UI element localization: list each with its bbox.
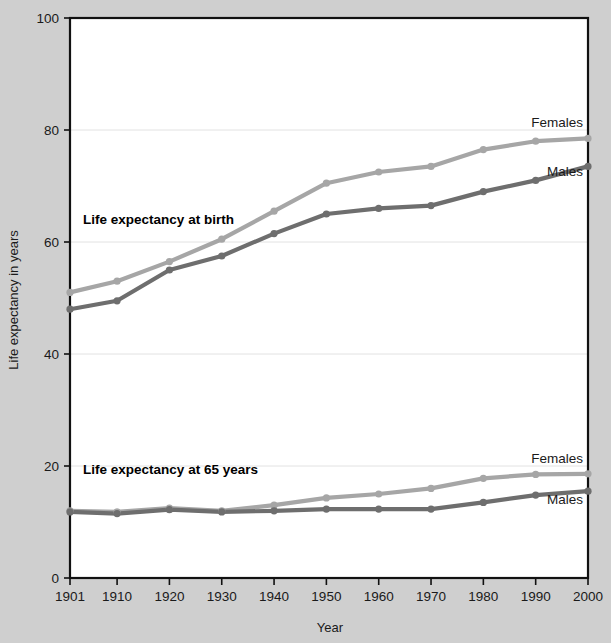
data-point-marker [113, 278, 120, 285]
data-point-marker [218, 252, 225, 259]
data-point-marker [375, 205, 382, 212]
y-tick-label: 100 [36, 11, 59, 26]
data-point-marker [323, 210, 330, 217]
data-point-marker [66, 508, 73, 515]
data-point-marker [584, 135, 591, 142]
y-tick-label: 40 [44, 347, 59, 362]
x-tick-label: 1920 [154, 589, 184, 604]
x-tick-label: 2000 [573, 589, 603, 604]
data-point-marker [270, 208, 277, 215]
data-point-marker [375, 506, 382, 513]
data-point-marker [584, 470, 591, 477]
data-point-marker [532, 471, 539, 478]
data-point-marker [480, 475, 487, 482]
y-tick-label: 20 [44, 459, 59, 474]
data-point-marker [270, 507, 277, 514]
series-end-label: Females [531, 451, 583, 466]
series-end-label: Females [531, 115, 583, 130]
data-point-marker [66, 306, 73, 313]
y-tick-label: 60 [44, 235, 59, 250]
x-tick-label: 1960 [364, 589, 394, 604]
data-point-marker [375, 168, 382, 175]
group-annotation-label: Life expectancy at birth [83, 212, 234, 227]
data-point-marker [166, 258, 173, 265]
data-point-marker [66, 289, 73, 296]
data-point-marker [480, 499, 487, 506]
data-point-marker [584, 488, 591, 495]
x-axis-title: Year [317, 620, 344, 635]
chart-canvas: 020406080100 190119101920193019401950196… [0, 0, 611, 643]
data-point-marker [323, 180, 330, 187]
data-point-marker [427, 202, 434, 209]
data-point-marker [532, 492, 539, 499]
data-point-marker [323, 494, 330, 501]
data-point-marker [218, 236, 225, 243]
x-tick-label: 1970 [416, 589, 446, 604]
y-axis-title: Life expectancy in years [6, 230, 21, 370]
x-tick-label: 1930 [207, 589, 237, 604]
data-point-marker [166, 506, 173, 513]
group-annotation-label: Life expectancy at 65 years [83, 462, 258, 477]
y-tick-label: 80 [44, 123, 59, 138]
data-point-marker [532, 177, 539, 184]
x-tick-label: 1980 [468, 589, 498, 604]
data-point-marker [113, 297, 120, 304]
x-tick-label: 1901 [55, 589, 85, 604]
life-expectancy-chart: 020406080100 190119101920193019401950196… [0, 0, 611, 643]
data-point-marker [532, 138, 539, 145]
x-tick-label: 1950 [311, 589, 341, 604]
data-point-marker [323, 506, 330, 513]
data-point-marker [113, 510, 120, 517]
data-point-marker [218, 508, 225, 515]
data-point-marker [375, 490, 382, 497]
series-end-label: Males [547, 492, 583, 507]
x-tick-label: 1940 [259, 589, 289, 604]
data-point-marker [427, 506, 434, 513]
data-point-marker [584, 163, 591, 170]
data-point-marker [480, 188, 487, 195]
data-point-marker [166, 266, 173, 273]
x-tick-label: 1910 [102, 589, 132, 604]
x-tick-label: 1990 [521, 589, 551, 604]
data-point-marker [480, 146, 487, 153]
series-end-label: Males [547, 164, 583, 179]
data-point-marker [427, 485, 434, 492]
y-tick-label: 0 [51, 571, 59, 586]
data-point-marker [427, 163, 434, 170]
plot-area-background [70, 18, 588, 578]
data-point-marker [270, 230, 277, 237]
